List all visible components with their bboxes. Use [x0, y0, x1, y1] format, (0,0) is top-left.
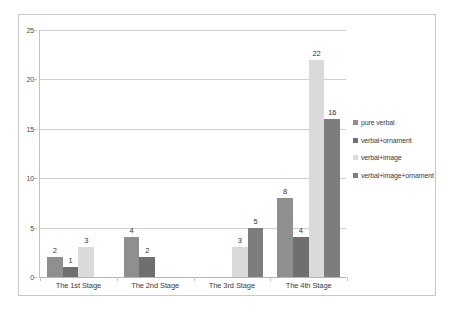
bar[interactable] — [232, 247, 248, 277]
y-tick-mark — [34, 178, 37, 179]
bar-slot: 3 — [78, 30, 94, 277]
bar[interactable] — [248, 228, 264, 277]
bar[interactable] — [78, 247, 94, 277]
bar[interactable] — [293, 237, 309, 277]
x-tick-mark — [347, 277, 348, 281]
y-axis: 0510152025 — [19, 30, 37, 277]
x-tick-label: The 2nd Stage — [131, 281, 179, 290]
y-tick-label: 25 — [26, 27, 34, 34]
x-tick-mark — [40, 277, 41, 281]
bar[interactable] — [309, 60, 325, 277]
bar-group: 35 — [194, 30, 271, 277]
bar-group: 42 — [117, 30, 194, 277]
bar-value-label: 2 — [53, 246, 57, 255]
bar[interactable] — [324, 119, 340, 277]
legend-item[interactable]: verbal+ornament — [353, 137, 437, 144]
bar-value-label: 1 — [68, 256, 72, 265]
legend-label: verbal+image — [361, 154, 401, 161]
bar-group: 842216 — [270, 30, 347, 277]
y-tick-mark — [34, 129, 37, 130]
bars-layer: 2134235842216 — [40, 30, 346, 277]
bar-value-label: 8 — [283, 187, 287, 196]
bar-slot: 22 — [309, 30, 325, 277]
y-tick-label: 10 — [26, 175, 34, 182]
bar-value-label: 16 — [328, 108, 336, 117]
bar-slot: 3 — [232, 30, 248, 277]
x-axis: The 1st StageThe 2nd StageThe 3rd StageT… — [40, 281, 347, 295]
legend-swatch-icon — [353, 120, 358, 125]
bar[interactable] — [124, 237, 140, 277]
bar-value-label: 5 — [253, 217, 257, 226]
legend-label: pure verbal — [361, 119, 394, 126]
legend-swatch-icon — [353, 173, 358, 178]
x-tick-label: The 1st Stage — [56, 281, 101, 290]
bar-slot: 2 — [47, 30, 63, 277]
bar-value-label: 4 — [299, 226, 303, 235]
bar-value-label: 4 — [129, 226, 133, 235]
legend-item[interactable]: pure verbal — [353, 119, 437, 126]
bar[interactable] — [63, 267, 79, 277]
bar-slot: 4 — [124, 30, 140, 277]
chart-legend: pure verbalverbal+ornamentverbal+imageve… — [353, 119, 437, 189]
legend-item[interactable]: verbal+image+ornament — [353, 172, 437, 179]
y-tick-mark — [34, 30, 37, 31]
bar-value-label: 2 — [145, 246, 149, 255]
x-tick-mark — [270, 277, 271, 281]
y-tick-mark — [34, 228, 37, 229]
bar-slot: 1 — [63, 30, 79, 277]
x-tick-label: The 4th Stage — [286, 281, 332, 290]
chart-frame: 0510152025 2134235842216 The 1st StageTh… — [18, 14, 436, 296]
bar-value-label: 3 — [84, 236, 88, 245]
legend-label: verbal+image+ornament — [361, 172, 434, 179]
x-tick-mark — [117, 277, 118, 281]
y-tick-label: 15 — [26, 125, 34, 132]
plot-area: 2134235842216 — [39, 30, 346, 277]
bar[interactable] — [139, 257, 155, 277]
legend-label: verbal+ornament — [361, 137, 411, 144]
bar-slot: 16 — [324, 30, 340, 277]
y-tick-mark — [34, 79, 37, 80]
bar-value-label: 3 — [238, 236, 242, 245]
bar-slot: 2 — [139, 30, 155, 277]
bar-slot: 8 — [277, 30, 293, 277]
bar-value-label: 22 — [312, 49, 320, 58]
x-tick-label: The 3rd Stage — [209, 281, 255, 290]
legend-item[interactable]: verbal+image — [353, 154, 437, 161]
y-tick-mark — [34, 277, 37, 278]
legend-swatch-icon — [353, 155, 358, 160]
x-tick-mark — [194, 277, 195, 281]
legend-swatch-icon — [353, 138, 358, 143]
bar-group: 213 — [40, 30, 117, 277]
gridline — [39, 277, 346, 278]
bar-slot: 4 — [293, 30, 309, 277]
y-tick-label: 20 — [26, 76, 34, 83]
bar[interactable] — [277, 198, 293, 277]
bar-slot: 5 — [248, 30, 264, 277]
bar[interactable] — [47, 257, 63, 277]
